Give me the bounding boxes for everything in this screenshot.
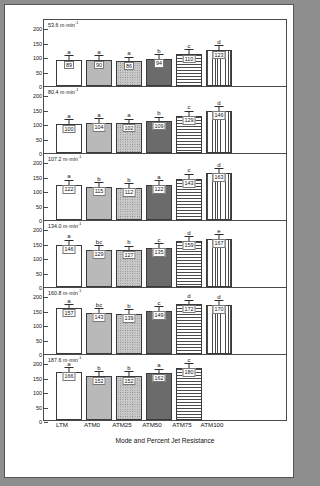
significance-letter: b [157, 48, 160, 54]
significance-letter: a [97, 49, 100, 55]
significance-letter: c [188, 43, 191, 49]
bar-group: a100a104a102b109c129d146 [50, 96, 282, 153]
bar-value-label: 152 [93, 377, 106, 385]
bar-value-label: 163 [213, 173, 226, 181]
bar-value-label: 180 [183, 368, 196, 376]
bar-value-label: 149 [153, 311, 166, 319]
y-tick [44, 192, 48, 193]
y-tick-label: 200 [33, 227, 42, 233]
significance-letter: b [127, 239, 130, 245]
speed-value: 107.2 m·min [48, 156, 78, 162]
significance-letter: d [187, 293, 190, 299]
bar-slot-atm50: c149 [144, 297, 174, 354]
plot-area: 050100150200a166b152b152a162c180 [44, 364, 286, 420]
error-bar [159, 370, 160, 373]
speed-value: 80.4 m·min [48, 89, 75, 95]
bar-value-label: 166 [63, 372, 76, 380]
significance-letter: c [158, 237, 161, 243]
y-tick [44, 312, 48, 313]
bar-slot-atm0: b115 [84, 163, 114, 220]
bar-value-label: 162 [153, 374, 166, 382]
y-tick-label: 150 [33, 375, 42, 381]
error-bar-cap [185, 363, 194, 364]
error-bar [219, 169, 220, 172]
bar-slot-atm50: a162 [144, 364, 174, 420]
y-tick [44, 29, 48, 30]
y-tick-label: 150 [33, 40, 42, 46]
bar-slot-atm0: bc143 [84, 297, 114, 354]
panel-speed-label: 53.6 m·min-1 [48, 21, 79, 28]
y-tick [44, 163, 48, 164]
error-bar [189, 237, 190, 240]
error-bar-cap [155, 306, 164, 307]
panel-speed-6: 187.6 m·min-1050100150200a166b152b152a16… [43, 354, 287, 421]
plot-area: 050100150200a157bc143b139c149d172d170 [44, 297, 286, 354]
plot-area: 050100150200a146bc129b127c135d159e167 [44, 230, 286, 287]
y-tick-label: 50 [36, 203, 42, 209]
bar-group: a122b115b112a122c143d163 [50, 163, 282, 220]
significance-letter: a [127, 50, 130, 56]
y-tick-label: 0 [39, 285, 42, 291]
error-bar-cap [95, 182, 104, 183]
error-bar-cap [95, 118, 104, 119]
x-tick-label-atm100: ATM100 [192, 421, 232, 428]
significance-letter: b [97, 176, 100, 182]
bar-slot-atm75: c129 [174, 96, 204, 153]
speed-value: 53.6 m·min [48, 22, 75, 28]
plot-area: 050100150200a122b115b112a122c143d163 [44, 163, 286, 220]
bar-slot-atm75: c110 [174, 29, 204, 86]
error-bar-cap [185, 236, 194, 237]
significance-letter: c [158, 300, 161, 306]
y-tick-label: 0 [39, 84, 42, 90]
panel-speed-label: 187.6 m·min-1 [48, 356, 82, 363]
significance-letter: a [67, 173, 70, 179]
bar-group: a157bc143b139c149d172d170 [50, 297, 282, 354]
error-bar [159, 118, 160, 121]
significance-letter: b [127, 177, 130, 183]
y-tick [44, 245, 48, 246]
error-bar [99, 309, 100, 312]
bar-value-label: 94 [154, 59, 164, 67]
significance-letter: d [187, 230, 190, 236]
error-bar-cap [95, 371, 104, 372]
panel-speed-label: 80.4 m·min-1 [48, 88, 79, 95]
bar-slot-atm50: b94 [144, 29, 174, 86]
significance-letter: a [67, 49, 70, 55]
error-bar-cap [95, 55, 104, 56]
significance-letter: a [157, 174, 160, 180]
error-bar-cap [65, 119, 74, 120]
significance-letter: c [188, 357, 191, 363]
plot-area: 050100150200a100a104a102b109c129d146 [44, 96, 286, 153]
error-bar [69, 241, 70, 245]
speed-value: 187.6 m·min [48, 357, 78, 363]
error-bar [99, 183, 100, 186]
bar-value-label: 110 [183, 55, 196, 63]
y-tick-label: 100 [33, 189, 42, 195]
error-bar [69, 305, 70, 308]
speed-exponent: -1 [78, 289, 82, 293]
significance-letter: a [67, 113, 70, 119]
speed-exponent: -1 [78, 155, 82, 159]
panel-speed-5: 160.8 m·min-1050100150200a157bc143b139c1… [43, 287, 287, 354]
y-tick [44, 140, 48, 141]
x-axis: LTMATM0ATM25ATM50ATM75ATM100 [43, 421, 287, 433]
error-bar-cap [65, 180, 74, 181]
error-bar-cap [65, 55, 74, 56]
error-bar-cap [125, 119, 134, 120]
bar-value-label: 129 [183, 116, 196, 124]
error-bar [99, 246, 100, 249]
bar-slot-ltm: a157 [54, 297, 84, 354]
panel-speed-2: 80.4 m·min-1050100150200a100a104a102b109… [43, 86, 287, 153]
error-bar [129, 184, 130, 187]
y-tick-label: 100 [33, 55, 42, 61]
y-tick-label: 100 [33, 122, 42, 128]
error-bar-cap [185, 300, 194, 301]
error-bar-cap [65, 240, 74, 241]
error-bar [159, 307, 160, 310]
bar-value-label: 129 [93, 250, 106, 258]
bar-slot-atm25: b139 [114, 297, 144, 354]
significance-letter: d [217, 39, 220, 45]
bar-slot-atm25: b127 [114, 230, 144, 287]
y-tick [44, 111, 48, 112]
y-tick-label: 150 [33, 107, 42, 113]
